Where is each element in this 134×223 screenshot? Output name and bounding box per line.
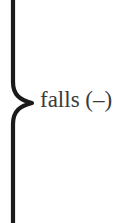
brace-label: falls (–) [40,86,112,114]
right-curly-brace-icon [0,0,40,223]
